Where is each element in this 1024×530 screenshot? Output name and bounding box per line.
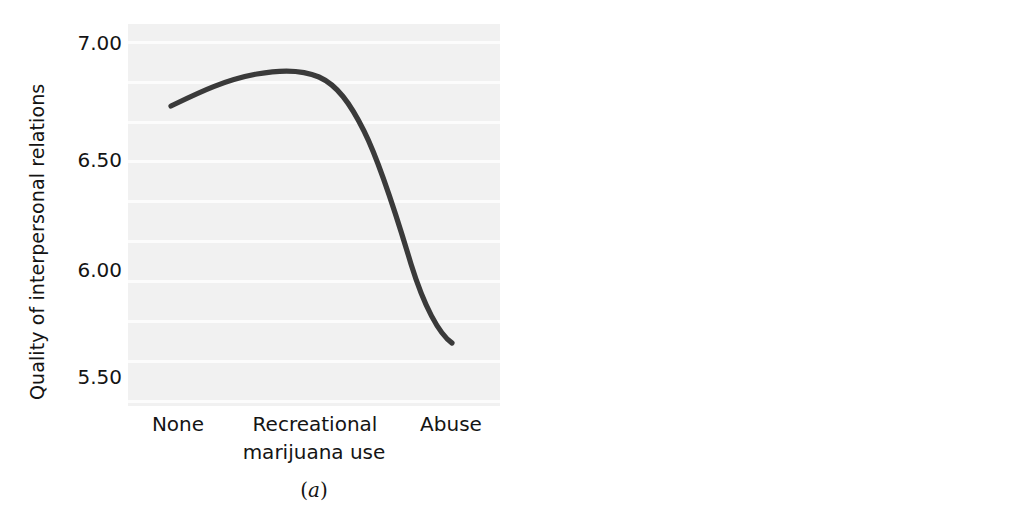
panel-a: Quality of interpersonal relations 7.00 … [0,0,512,530]
panel-letter-a: a [308,478,320,502]
curve-svg-a [128,24,500,406]
x-tick-label: None [152,412,204,436]
y-tick-label: 7.00 [50,33,122,53]
y-axis-title-a: Quality of interpersonal relations [26,84,48,400]
x-axis-ticks-a: None Recreational Abuse [128,412,500,438]
plot-area-a [128,24,500,406]
figure-container: Quality of interpersonal relations 7.00 … [0,0,1024,530]
data-curve-a [171,71,452,343]
y-tick-label: 6.50 [50,150,122,170]
y-axis-ticks-a: 7.00 6.50 6.00 5.50 [48,0,122,530]
x-axis-title-a: marijuana use [128,440,500,464]
y-tick-label: 6.00 [50,260,122,280]
x-tick-label: Recreational [253,412,378,436]
x-tick-label: Abuse [420,412,482,436]
panel-b: Subjective distress 5.00 4.50 4.00 3.50 … [512,0,1024,530]
panel-caption-a: (a) [128,478,500,502]
y-tick-label: 5.50 [50,367,122,387]
